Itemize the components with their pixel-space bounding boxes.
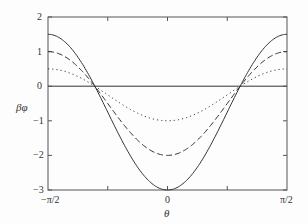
y-tick-minus-1: −1: [33, 116, 44, 126]
x-axis-label: θ: [164, 207, 169, 219]
y-tick-1: 1: [37, 47, 42, 57]
series-dotted-line: [48, 69, 287, 121]
x-tick-minus-pi-half: −π/2: [41, 195, 59, 205]
y-tick-minus-2: −2: [33, 150, 44, 160]
axes-frame: [48, 17, 287, 190]
y-tick-2: 2: [37, 12, 42, 22]
chart: 2 1 0 −1 −2 −3 −π/2 0 π/2 θ βφ: [0, 0, 308, 224]
x-tick-pi-half: π/2: [280, 195, 293, 205]
plot-area: [0, 0, 308, 224]
x-tick-zero: 0: [165, 195, 170, 205]
series-solid-line: [48, 34, 287, 190]
y-axis-label: βφ: [16, 101, 28, 113]
y-tick-0: 0: [37, 81, 42, 91]
